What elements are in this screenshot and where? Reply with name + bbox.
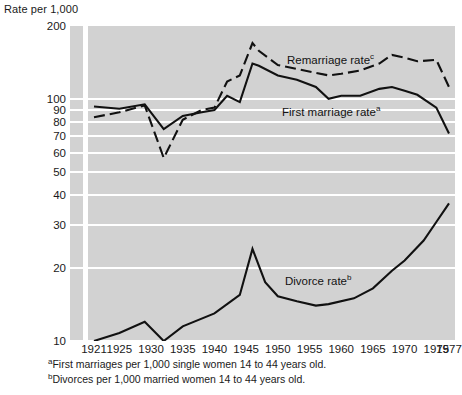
series-label-text: First marriage rate — [282, 106, 376, 118]
y-axis-tick-label: 200 — [4, 20, 66, 32]
y-axis-tick-label: 40 — [4, 189, 66, 201]
y-axis-tick-label: 20 — [4, 262, 66, 274]
series-label-footnote-marker: c — [370, 52, 374, 61]
x-axis-tick-label: 1921 — [81, 343, 107, 355]
footnote-text: First marriages per 1,000 single women 1… — [52, 358, 326, 370]
gridline-band — [70, 194, 83, 196]
gridline-band — [70, 340, 83, 342]
plot-area — [88, 26, 455, 341]
gridline-band — [70, 135, 83, 137]
y-axis-tick-label: 50 — [4, 166, 66, 178]
y-axis-band — [70, 26, 83, 341]
x-axis-tick-label: 1965 — [360, 343, 386, 355]
y-axis-tick-label: 90 — [4, 104, 66, 116]
x-axis-tick-label: 1935 — [170, 343, 196, 355]
y-axis-tick-label: 30 — [4, 219, 66, 231]
series-label-footnote-marker: a — [376, 104, 380, 113]
x-axis-tick-label: 1960 — [328, 343, 354, 355]
x-axis-tick-label: 1970 — [392, 343, 418, 355]
series-line-divorce-rate — [94, 203, 449, 341]
footnote-text: Divorces per 1,000 married women 14 to 4… — [52, 373, 305, 385]
gridline-band — [70, 152, 83, 154]
x-axis-tick-label: 1955 — [297, 343, 323, 355]
y-axis-tick-label: 10 — [4, 335, 66, 347]
x-axis-tick-label: 1945 — [233, 343, 259, 355]
y-axis-tick-label: 70 — [4, 130, 66, 142]
series-line-remarriage-rate — [94, 43, 449, 158]
x-axis-tick-label: 1950 — [265, 343, 291, 355]
y-axis-labels: 200100908070605040302010 — [0, 26, 66, 341]
gridline-band — [70, 121, 83, 123]
gridline-band — [70, 109, 83, 111]
series-line-first-marriage-rate — [94, 64, 449, 134]
x-axis-tick-label: 1930 — [138, 343, 164, 355]
gridline-band — [70, 224, 83, 226]
footnote: bDivorces per 1,000 married women 14 to … — [48, 372, 458, 387]
y-axis-tick-label: 80 — [4, 116, 66, 128]
x-axis-tick-label: 1925 — [107, 343, 133, 355]
y-axis-tick-label: 60 — [4, 147, 66, 159]
series-label-text: Divorce rate — [285, 275, 347, 287]
series-label-divorce-rate: Divorce rateb — [285, 275, 351, 287]
gridline-band — [70, 98, 83, 100]
series-label-text: Remarriage rate — [287, 54, 370, 66]
gridline-band — [70, 267, 83, 269]
x-axis-tick-label: 1940 — [202, 343, 228, 355]
series-label-remarriage-rate: Remarriage ratec — [287, 54, 374, 66]
footnote: aFirst marriages per 1,000 single women … — [48, 357, 458, 372]
x-axis-tick-label: 1977 — [436, 343, 462, 355]
y-axis-title: Rate per 1,000 — [4, 3, 78, 15]
series-lines — [88, 26, 455, 341]
series-label-first-marriage-rate: First marriage ratea — [282, 106, 380, 118]
series-label-footnote-marker: b — [347, 273, 351, 282]
footnotes: aFirst marriages per 1,000 single women … — [48, 357, 458, 387]
gridline-band — [70, 171, 83, 173]
